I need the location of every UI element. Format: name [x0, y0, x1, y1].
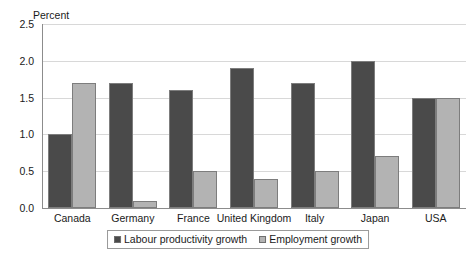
legend-label: Labour productivity growth	[124, 233, 247, 245]
bar	[315, 171, 339, 208]
bar	[193, 171, 217, 208]
x-axis-tick-label: Canada	[54, 211, 91, 225]
bar-group	[291, 24, 339, 208]
bar-group	[351, 24, 399, 208]
x-axis-tick-label: USA	[425, 211, 447, 225]
bar-group	[48, 24, 96, 208]
y-axis-tick-label: 0.5	[0, 166, 34, 177]
plot-area	[42, 24, 466, 209]
x-axis-tick-label: Germany	[111, 211, 154, 225]
y-axis-title: Percent	[33, 9, 69, 21]
bar-group	[169, 24, 217, 208]
x-axis-tick-labels: CanadaGermanyFranceUnited KingdomItalyJa…	[42, 211, 466, 227]
bar-group	[230, 24, 278, 208]
legend-swatch-icon	[259, 236, 266, 243]
bar	[412, 98, 436, 208]
bar	[351, 61, 375, 208]
legend-entry: Employment growth	[259, 233, 362, 245]
y-axis-tick-labels: 0.00.51.01.52.02.5	[0, 24, 38, 209]
bar	[109, 83, 133, 208]
bar-group	[412, 24, 460, 208]
x-axis-tick-label: Italy	[305, 211, 324, 225]
legend-entry: Labour productivity growth	[114, 233, 247, 245]
chart-legend: Labour productivity growthEmployment gro…	[107, 230, 369, 249]
legend-label: Employment growth	[269, 233, 362, 245]
y-axis-tick-label: 2.5	[0, 19, 34, 30]
bar	[375, 156, 399, 208]
bar	[169, 90, 193, 208]
y-axis-tick-label: 2.0	[0, 55, 34, 66]
bar	[48, 134, 72, 208]
bars-layer	[42, 24, 466, 209]
bar	[436, 98, 460, 208]
legend-swatch-icon	[114, 236, 121, 243]
bar-chart-figure: Percent 0.00.51.01.52.02.5 CanadaGermany…	[0, 0, 476, 261]
bar	[133, 201, 157, 208]
bar	[230, 68, 254, 208]
bar-group	[109, 24, 157, 208]
bar	[254, 179, 278, 208]
x-axis-tick-label: United Kingdom	[217, 211, 292, 225]
x-axis-tick-label: France	[177, 211, 210, 225]
x-axis-tick-label: Japan	[361, 211, 390, 225]
y-axis-tick-label: 1.5	[0, 92, 34, 103]
x-axis-baseline	[42, 208, 466, 209]
y-axis-tick-label: 0.0	[0, 203, 34, 214]
bar	[291, 83, 315, 208]
y-axis-tick-label: 1.0	[0, 129, 34, 140]
bar	[72, 83, 96, 208]
